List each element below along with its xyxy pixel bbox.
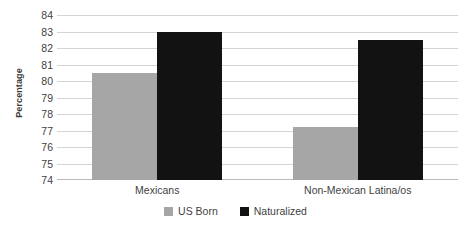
y-axis-tick-label: 76 — [27, 142, 53, 153]
y-axis-tick-labels: 8483828180797877767574 — [27, 15, 53, 180]
x-axis-category-labels: MexicansNon-Mexican Latina/os — [57, 183, 458, 199]
bar — [92, 73, 157, 180]
y-axis-tick-label: 74 — [27, 175, 53, 186]
bar — [358, 40, 423, 180]
y-axis-tick-label: 81 — [27, 59, 53, 70]
legend-item: Naturalized — [240, 206, 307, 217]
legend-label: Naturalized — [254, 206, 307, 217]
bars-layer — [57, 15, 458, 180]
bar-chart: Percentage 8483828180797877767574 Mexica… — [0, 0, 471, 231]
y-axis-tick-label: 80 — [27, 76, 53, 87]
legend-label: US Born — [178, 206, 218, 217]
legend-swatch-icon — [240, 207, 249, 216]
y-axis-title: Percentage — [14, 33, 24, 153]
plot-area — [57, 15, 458, 180]
y-axis-tick-label: 82 — [27, 43, 53, 54]
legend-swatch-icon — [164, 207, 173, 216]
bar — [293, 127, 358, 180]
bar — [157, 32, 222, 181]
x-axis-category-label: Mexicans — [135, 183, 179, 197]
y-axis-tick-label: 84 — [27, 10, 53, 21]
y-axis-tick-label: 83 — [27, 26, 53, 37]
legend-item: US Born — [164, 206, 218, 217]
x-axis-category-label: Non-Mexican Latina/os — [304, 183, 411, 197]
y-axis-tick-label: 77 — [27, 125, 53, 136]
y-axis-tick-label: 79 — [27, 92, 53, 103]
y-axis-tick-label: 75 — [27, 158, 53, 169]
y-axis-tick-label: 78 — [27, 109, 53, 120]
chart-legend: US BornNaturalized — [0, 206, 471, 217]
